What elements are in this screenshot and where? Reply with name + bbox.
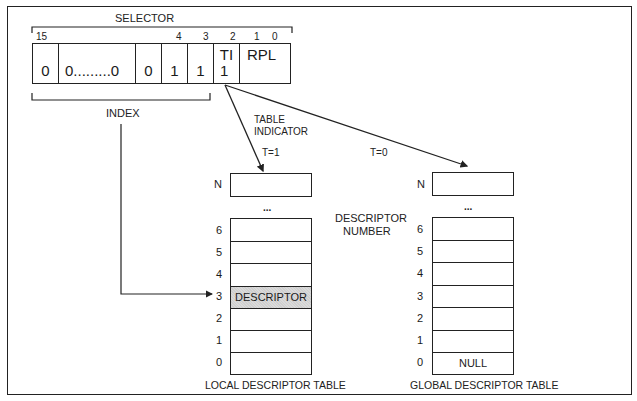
gdt-rownum-0: 0 xyxy=(414,356,426,368)
selector-field-ti: TI 1 xyxy=(213,43,240,84)
selector-title: SELECTOR xyxy=(115,12,174,24)
ldt-row-2 xyxy=(231,309,311,331)
ldt-row-0 xyxy=(231,353,311,374)
bit-label-15: 15 xyxy=(36,31,47,42)
gdt-rownum-5: 5 xyxy=(414,245,426,257)
gdt-n-entry xyxy=(432,172,514,196)
selector-field-bit15: 0 xyxy=(32,43,59,84)
gdt-title: GLOBAL DESCRIPTOR TABLE xyxy=(410,379,558,391)
ldt-row-4 xyxy=(231,264,311,287)
t0-label: T=0 xyxy=(370,147,388,158)
index-label: INDEX xyxy=(106,107,140,119)
selector-field-bit4: 1 xyxy=(161,43,188,84)
ldt-rownum-1: 1 xyxy=(213,334,225,346)
gdt-row-1 xyxy=(433,331,513,353)
gdt-rownum-6: 6 xyxy=(414,223,426,235)
gdt-ellipsis: ... xyxy=(464,201,472,212)
bit-label-0: 0 xyxy=(272,31,278,42)
ldt-rownum-0: 0 xyxy=(213,356,225,368)
selector-field-bit3: 1 xyxy=(187,43,214,84)
ldt-title: LOCAL DESCRIPTOR TABLE xyxy=(205,379,346,391)
ldt-table: DESCRIPTOR xyxy=(230,218,312,375)
table-indicator-label-1: TABLE xyxy=(254,114,285,125)
bit-label-1: 1 xyxy=(254,31,260,42)
bit-label-3: 3 xyxy=(203,31,209,42)
ldt-rownum-6: 6 xyxy=(213,224,225,236)
ldt-row-5 xyxy=(231,242,311,264)
ldt-row-3-descriptor: DESCRIPTOR xyxy=(231,287,311,309)
selector-field-middle: 0.........0 xyxy=(58,43,136,84)
bit-label-2: 2 xyxy=(230,31,236,42)
ldt-rownum-2: 2 xyxy=(213,312,225,324)
selector-field-bit5: 0 xyxy=(135,43,162,84)
ldt-n-label: N xyxy=(214,178,222,190)
gdt-rownum-2: 2 xyxy=(414,312,426,324)
descriptor-number-label-2: NUMBER xyxy=(343,225,391,237)
gdt-row-5 xyxy=(433,241,513,263)
gdt-row-4 xyxy=(433,263,513,286)
descriptor-number-label-1: DESCRIPTOR xyxy=(335,212,407,224)
ldt-ellipsis: ... xyxy=(263,202,271,213)
ldt-row-6 xyxy=(231,219,311,242)
gdt-rownum-1: 1 xyxy=(414,334,426,346)
gdt-row-3 xyxy=(433,286,513,308)
gdt-row-0-null: NULL xyxy=(433,353,513,374)
table-indicator-label-2: INDICATOR xyxy=(254,126,308,137)
gdt-rownum-4: 4 xyxy=(414,267,426,279)
ldt-n-entry xyxy=(230,173,312,197)
gdt-row-2 xyxy=(433,308,513,331)
t1-label: T=1 xyxy=(262,147,280,158)
ldt-row-1 xyxy=(231,331,311,353)
selector-field-rpl: RPL xyxy=(239,43,291,84)
gdt-row-6 xyxy=(433,218,513,241)
bit-label-4: 4 xyxy=(176,31,182,42)
gdt-table: NULL xyxy=(432,217,514,375)
gdt-rownum-3: 3 xyxy=(414,290,426,302)
ldt-rownum-4: 4 xyxy=(213,268,225,280)
ldt-rownum-3: 3 xyxy=(213,290,225,302)
ldt-rownum-5: 5 xyxy=(213,246,225,258)
gdt-n-label: N xyxy=(417,178,425,190)
